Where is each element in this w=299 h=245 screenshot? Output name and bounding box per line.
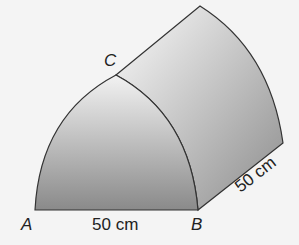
vertex-a-label: A bbox=[21, 216, 32, 233]
solid-figure bbox=[0, 0, 299, 245]
vertex-b-label: B bbox=[191, 216, 202, 233]
vertex-c-label: C bbox=[104, 52, 116, 69]
base-dimension-label: 50 cm bbox=[92, 216, 138, 233]
